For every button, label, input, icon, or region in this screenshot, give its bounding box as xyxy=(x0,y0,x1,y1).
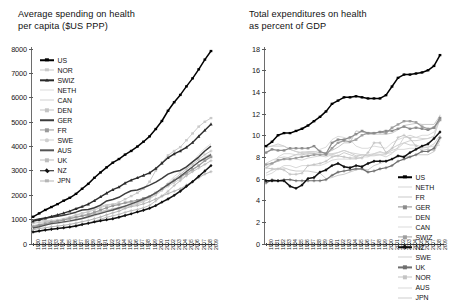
legend-item-jpn[interactable]: JPN xyxy=(398,293,434,303)
y-tick-label: 4000 xyxy=(11,142,27,151)
legend-marker-icon xyxy=(402,245,407,250)
chart-title-right-line1: Total expenditures on health xyxy=(249,8,454,20)
legend-swatch-icon xyxy=(398,203,412,212)
legend-item-label: NETH xyxy=(58,87,77,94)
legend-item-label: CAN xyxy=(416,224,430,231)
chart-title-right: Total expenditures on health as percent … xyxy=(249,8,454,32)
legend-item-label: JPN xyxy=(58,177,71,184)
chart-title-right-line2: as percent of GDP xyxy=(249,20,454,32)
legend-item-ger[interactable]: GER xyxy=(398,202,434,212)
legend-item-can[interactable]: CAN xyxy=(398,222,434,232)
legend-swatch-icon xyxy=(40,116,54,125)
legend-swatch-icon xyxy=(40,96,54,105)
legend-item-us[interactable]: US xyxy=(398,172,434,182)
chart-title-left: Average spending on health per capita ($… xyxy=(18,8,223,32)
legend-item-aus[interactable]: AUS xyxy=(398,283,434,293)
legend-item-jpn[interactable]: JPN xyxy=(40,176,76,186)
y-tick-label: 3000 xyxy=(11,166,27,175)
y-tick-label: 6000 xyxy=(11,93,27,102)
legend-item-us[interactable]: US xyxy=(40,55,76,65)
y-tick-label: 0 xyxy=(23,239,27,248)
legend-item-den[interactable]: DEN xyxy=(398,212,434,222)
legend-swatch-icon xyxy=(40,166,54,175)
legend-item-can[interactable]: CAN xyxy=(40,95,76,105)
legend-item-label: UK xyxy=(416,264,425,271)
legend-item-nor[interactable]: NOR xyxy=(398,272,434,282)
legend-item-label: AUS xyxy=(58,147,72,154)
legend-item-swe[interactable]: SWE xyxy=(398,252,434,262)
legend-item-swe[interactable]: SWE xyxy=(40,135,76,145)
legend-item-ger[interactable]: GER xyxy=(40,115,76,125)
chart-title-left-line1: Average spending on health xyxy=(18,8,223,20)
legend-item-label: NZ xyxy=(416,244,425,251)
legend-item-label: FR xyxy=(416,194,425,201)
legend-item-label: AUS xyxy=(416,284,430,291)
legend-marker-icon xyxy=(403,236,407,239)
legend-item-label: DEN xyxy=(58,107,72,114)
y-tick-label: 7000 xyxy=(11,68,27,77)
legend-item-fr[interactable]: FR xyxy=(40,125,76,135)
series-fr xyxy=(266,116,440,168)
legend-item-fr[interactable]: FR xyxy=(398,192,434,202)
legend-item-label: UK xyxy=(58,157,67,164)
legend-swatch-icon xyxy=(398,273,412,282)
legend-swatch-icon xyxy=(398,243,412,252)
legend-marker-icon xyxy=(45,159,49,162)
legend-marker-icon xyxy=(45,139,49,142)
legend-swatch-icon xyxy=(398,293,412,302)
legend-marker-icon xyxy=(403,205,407,208)
legend-item-label: SWIZ xyxy=(58,77,75,84)
legend-swatch-icon xyxy=(398,263,412,272)
legend-item-swiz[interactable]: SWIZ xyxy=(398,232,434,242)
y-tick-label: 4 xyxy=(256,196,260,205)
legend-item-uk[interactable]: UK xyxy=(398,262,434,272)
legend-item-label: SWE xyxy=(58,137,74,144)
chart-panel-spending-per-capita: Average spending on health per capita ($… xyxy=(0,0,231,293)
legend-item-label: NOR xyxy=(416,274,431,281)
legend-swatch-icon xyxy=(398,193,412,202)
legend-item-uk[interactable]: UK xyxy=(40,155,76,165)
y-tick-label: 8000 xyxy=(11,44,27,53)
legend-item-den[interactable]: DEN xyxy=(40,105,76,115)
legend-item-nor[interactable]: NOR xyxy=(40,65,76,75)
legend-item-label: SWIZ xyxy=(416,234,433,241)
legend-item-label: NETH xyxy=(416,184,435,191)
legend-swatch-icon xyxy=(398,223,412,232)
legend-item-nz[interactable]: NZ xyxy=(398,242,434,252)
legend-swatch-icon xyxy=(40,86,54,95)
legend-marker-icon xyxy=(45,68,49,71)
legend-item-label: SWE xyxy=(416,254,432,261)
legend-swatch-icon xyxy=(40,136,54,145)
legend-item-label: JPN xyxy=(416,294,429,301)
y-tick-label: 0 xyxy=(256,239,260,248)
y-tick-label: 16 xyxy=(252,66,260,75)
legend-swatch-icon xyxy=(398,173,412,182)
y-tick-label: 2 xyxy=(256,217,260,226)
legend-item-neth[interactable]: NETH xyxy=(40,85,76,95)
chart-title-left-line2: per capita ($US PPP) xyxy=(18,20,223,32)
legend-swatch-icon xyxy=(398,253,412,262)
legend-swatch-icon xyxy=(398,213,412,222)
legend-swatch-icon xyxy=(40,56,54,65)
y-tick-label: 14 xyxy=(252,87,260,96)
legend-swatch-icon xyxy=(398,233,412,242)
y-tick-label: 5000 xyxy=(11,117,27,126)
legend-marker-icon xyxy=(45,179,49,182)
y-tick-label: 18 xyxy=(252,44,260,53)
y-tick-label: 2000 xyxy=(11,190,27,199)
legend-item-nz[interactable]: NZ xyxy=(40,166,76,176)
legend-item-swiz[interactable]: SWIZ xyxy=(40,75,76,85)
legend-item-label: NZ xyxy=(58,167,67,174)
legend-item-label: US xyxy=(416,174,425,181)
legend-item-aus[interactable]: AUS xyxy=(40,145,76,155)
legend-swatch-icon xyxy=(40,176,54,185)
legend-swatch-icon xyxy=(398,183,412,192)
legend-marker-icon xyxy=(403,276,407,279)
legend-item-neth[interactable]: NETH xyxy=(398,182,434,192)
legend-marker-icon xyxy=(45,58,49,61)
legend-swatch-icon xyxy=(40,76,54,85)
legend-swatch-icon xyxy=(40,156,54,165)
legend-item-label: DEN xyxy=(416,214,430,221)
legend-marker-icon xyxy=(403,266,407,269)
